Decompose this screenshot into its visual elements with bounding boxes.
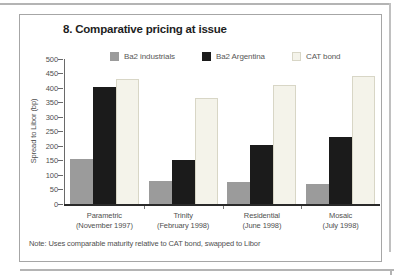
- x-category-name: Residential: [223, 211, 302, 221]
- y-axis-tick: [58, 117, 63, 118]
- y-axis-tick-label: 450: [28, 69, 58, 78]
- y-axis-tick: [58, 88, 63, 89]
- bar-cat-bond: [352, 76, 375, 204]
- bar-cat-bond: [273, 85, 296, 204]
- x-axis-group-tick: [144, 206, 145, 209]
- x-axis-group-tick: [223, 206, 224, 209]
- y-axis-tick: [58, 102, 63, 103]
- y-axis-tick: [58, 73, 63, 74]
- bar-group-trinity: [144, 59, 223, 204]
- x-category-label: Trinity(February 1998): [144, 211, 223, 230]
- y-axis-tick-label: 350: [28, 98, 58, 107]
- y-axis-tick: [58, 175, 63, 176]
- chart-plot-area: Spread to Libor (bp) 0501001502002503003…: [65, 59, 380, 204]
- bar-group-mosaic: [301, 59, 380, 204]
- y-axis-tick-label: 400: [28, 84, 58, 93]
- bar-cat-bond: [116, 79, 139, 204]
- previous-panel-border: [0, 3, 389, 5]
- next-panel-border: [20, 269, 394, 271]
- y-axis-tick-label: 50: [28, 185, 58, 194]
- bar-ba2-industrials: [227, 182, 250, 204]
- x-category-label: Mosaic(July 1998): [301, 211, 380, 230]
- bar-cat-bond: [195, 98, 218, 204]
- y-axis-tick: [58, 146, 63, 147]
- x-category-date: (November 1997): [65, 221, 144, 231]
- x-category-label: Parametric(November 1997): [65, 211, 144, 230]
- bar-group-parametric: [65, 59, 144, 204]
- figure-note: Note: Uses comparable maturity relative …: [29, 239, 260, 248]
- x-category-name: Parametric: [65, 211, 144, 221]
- x-category-label: Residential(June 1998): [223, 211, 302, 230]
- y-axis-tick-label: 0: [28, 200, 58, 209]
- bar-ba2-argentina: [172, 160, 195, 204]
- y-axis-tick: [58, 131, 63, 132]
- y-axis-tick-label: 250: [28, 127, 58, 136]
- page: 8. Comparative pricing at issue Ba2 indu…: [0, 0, 394, 275]
- y-axis-tick: [58, 160, 63, 161]
- x-axis-labels: Parametric(November 1997)Trinity(Februar…: [65, 211, 380, 230]
- bar-ba2-argentina: [329, 137, 352, 204]
- y-axis-tick-label: 100: [28, 171, 58, 180]
- y-axis-tick-label: 500: [28, 55, 58, 64]
- x-category-date: (July 1998): [301, 221, 380, 231]
- bar-ba2-industrials: [70, 159, 93, 204]
- bar-ba2-industrials: [306, 184, 329, 204]
- x-category-name: Trinity: [144, 211, 223, 221]
- x-axis-group-tick: [301, 206, 302, 209]
- y-axis-tick-label: 300: [28, 113, 58, 122]
- x-category-name: Mosaic: [301, 211, 380, 221]
- next-panel-right-border: [390, 269, 392, 275]
- bar-groups: [65, 59, 380, 204]
- x-axis-line: [64, 204, 380, 206]
- figure-panel: 8. Comparative pricing at issue Ba2 indu…: [19, 14, 382, 262]
- figure-title: 8. Comparative pricing at issue: [63, 23, 227, 35]
- y-axis-tick-label: 200: [28, 142, 58, 151]
- y-axis-tick-label: 150: [28, 156, 58, 165]
- y-axis-tick: [58, 189, 63, 190]
- x-category-date: (June 1998): [223, 221, 302, 231]
- bar-ba2-industrials: [149, 181, 172, 204]
- x-category-date: (February 1998): [144, 221, 223, 231]
- outer-frame-right-border: [389, 3, 391, 252]
- bar-ba2-argentina: [250, 145, 273, 204]
- bar-group-residential: [223, 59, 302, 204]
- y-axis-tick: [58, 204, 63, 205]
- bar-ba2-argentina: [93, 87, 116, 204]
- y-axis-tick: [58, 59, 63, 60]
